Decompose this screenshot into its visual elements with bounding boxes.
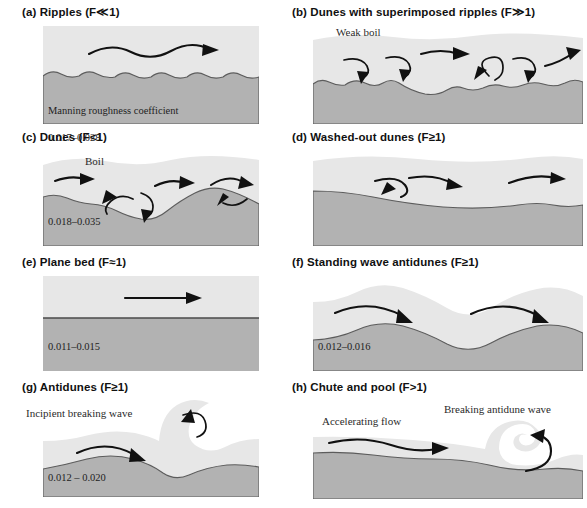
annotation-breaking-antidune-wave: Breaking antidune wave <box>444 403 551 417</box>
panel-a-caption: (a) Ripples (F≪1) <box>22 6 120 19</box>
annotation-boil: Boil <box>85 155 104 169</box>
panel-a-ripples: (a) Ripples (F≪1) Manning roughness coef… <box>22 6 282 126</box>
panel-h-chute-and-pool: (h) Chute and pool (F>1) Accelerating fl… <box>292 381 584 505</box>
panel-c-dunes: (c) Dunes (F<1) Boil 0.018–0.035 <box>22 131 282 249</box>
panel-b-diagram <box>313 28 583 124</box>
panel-c-manning-value: 0.018–0.035 <box>48 215 101 229</box>
annotation-incipient-breaking-wave: Incipient breaking wave <box>26 407 132 421</box>
panel-d-caption: (d) Washed-out dunes (F≥1) <box>292 131 446 144</box>
panel-d-diagram <box>313 151 583 246</box>
panel-e-diagram <box>43 276 259 371</box>
panel-d-washed-out-dunes: (d) Washed-out dunes (F≥1) <box>292 131 584 249</box>
panel-b-caption: (b) Dunes with superimposed ripples (F≫1… <box>292 6 535 19</box>
bedform-figure: (a) Ripples (F≪1) Manning roughness coef… <box>0 0 587 508</box>
panel-g-antidunes: (g) Antidunes (F≥1) Incipient breaking w… <box>22 381 282 505</box>
panel-e-plane-bed: (e) Plane bed (F≈1) 0.011–0.015 <box>22 256 282 374</box>
panel-b-dunes-superimposed-ripples: (b) Dunes with superimposed ripples (F≫1… <box>292 6 584 126</box>
panel-e-manning-value: 0.011–0.015 <box>48 340 100 354</box>
panel-e-caption: (e) Plane bed (F≈1) <box>22 256 126 269</box>
panel-f-manning-value: 0.012–0.016 <box>318 340 371 354</box>
panel-g-caption: (g) Antidunes (F≥1) <box>22 381 128 394</box>
panel-f-standing-wave-antidunes: (f) Standing wave antidunes (F≥1) 0.012–… <box>292 256 584 374</box>
panel-f-diagram <box>313 276 583 371</box>
panel-c-diagram <box>43 151 259 246</box>
panel-h-caption: (h) Chute and pool (F>1) <box>292 381 427 394</box>
panel-f-caption: (f) Standing wave antidunes (F≥1) <box>292 256 479 269</box>
bed-surface-chute-pool <box>313 452 583 499</box>
manning-legend-label: Manning roughness coefficient <box>48 104 178 118</box>
panel-c-caption: (c) Dunes (F<1) <box>22 131 107 144</box>
panel-g-manning-value: 0.012 – 0.020 <box>48 471 106 485</box>
annotation-weak-boil: Weak boil <box>336 26 381 40</box>
annotation-accelerating-flow: Accelerating flow <box>322 415 401 429</box>
